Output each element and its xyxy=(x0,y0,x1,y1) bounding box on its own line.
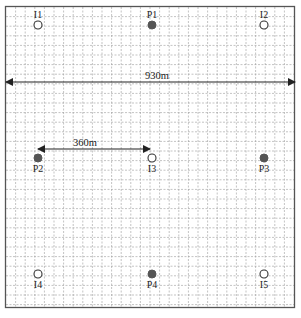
injection-well-marker xyxy=(34,270,42,278)
well-label: I2 xyxy=(260,10,268,20)
well-label: P2 xyxy=(33,164,44,174)
well-label: P4 xyxy=(147,280,158,290)
dimension-arrows xyxy=(6,82,295,149)
injection-well-marker xyxy=(260,270,268,278)
well-label: I4 xyxy=(34,280,42,290)
well-label: I1 xyxy=(34,10,42,20)
injection-well-marker xyxy=(148,154,156,162)
production-well-marker xyxy=(260,154,268,162)
injection-well-marker xyxy=(34,21,42,29)
well-label: I5 xyxy=(260,280,268,290)
injection-well-marker xyxy=(260,21,268,29)
well-label: P3 xyxy=(259,164,270,174)
dimension-label-width: 930m xyxy=(145,70,169,81)
dimension-label-spacing: 360m xyxy=(73,137,97,148)
well-pattern-diagram: I1P1I2P2I3P3I4P4I5930m360m xyxy=(0,0,301,318)
diagram-canvas xyxy=(0,0,301,318)
well-label: P1 xyxy=(147,10,158,20)
production-well-marker xyxy=(148,21,156,29)
production-well-marker xyxy=(34,154,42,162)
well-label: I3 xyxy=(148,164,156,174)
production-well-marker xyxy=(148,270,156,278)
